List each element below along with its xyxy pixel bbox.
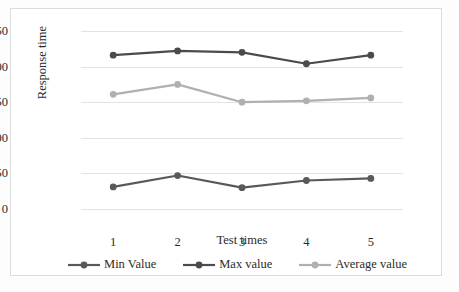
data-point xyxy=(239,49,246,56)
legend-item[interactable]: Average value xyxy=(298,257,407,272)
y-tick-label: 150 xyxy=(0,95,8,110)
y-tick-label: 100 xyxy=(0,130,8,145)
data-point xyxy=(303,60,310,67)
x-axis-title: Test times xyxy=(81,233,403,248)
legend-item[interactable]: Max value xyxy=(182,257,272,272)
legend-marker-icon xyxy=(67,259,101,271)
data-point xyxy=(239,99,246,106)
legend-label: Min Value xyxy=(104,257,156,272)
data-point xyxy=(174,48,181,55)
data-point xyxy=(367,95,374,102)
chart-frame: Response time 050100150200250 12345 Test… xyxy=(10,8,442,276)
data-point xyxy=(110,91,117,98)
legend-label: Max value xyxy=(219,257,272,272)
y-axis-title: Response time xyxy=(35,0,50,138)
legend-marker-icon xyxy=(182,259,216,271)
y-tick-label: 250 xyxy=(0,24,8,39)
data-point xyxy=(303,177,310,184)
data-point xyxy=(367,52,374,59)
chart-series-svg xyxy=(81,31,403,209)
y-tick-label: 50 xyxy=(0,166,8,181)
data-point xyxy=(110,52,117,59)
y-tick-label: 0 xyxy=(0,202,8,217)
legend-item[interactable]: Min Value xyxy=(67,257,156,272)
data-point xyxy=(174,172,181,179)
data-point xyxy=(239,184,246,191)
data-point xyxy=(367,175,374,182)
chart-figure: Response time 050100150200250 12345 Test… xyxy=(0,0,459,292)
chart-legend: Min ValueMax valueAverage value xyxy=(21,257,453,272)
data-point xyxy=(303,97,310,104)
plot-area: 050100150200250 12345 xyxy=(81,31,403,209)
gridline xyxy=(81,209,403,210)
data-point xyxy=(110,184,117,191)
data-point xyxy=(174,81,181,88)
legend-label: Average value xyxy=(335,257,407,272)
legend-marker-icon xyxy=(298,259,332,271)
y-tick-label: 200 xyxy=(0,59,8,74)
